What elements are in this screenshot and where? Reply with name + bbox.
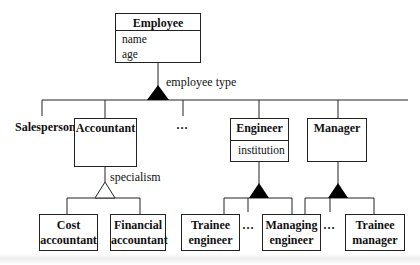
class-name: Employee (116, 14, 200, 30)
class-managing-engineer: Managingengineer (262, 214, 321, 251)
class-trainee-engineer: Traineeengineer (181, 214, 240, 251)
class-employee: Employee name age (115, 13, 201, 63)
class-name: Engineer (231, 119, 288, 140)
class-name: Accountant (75, 119, 136, 135)
bottom-fade (0, 254, 420, 265)
ellipsis: … (242, 218, 254, 233)
attribute-age: age (116, 47, 200, 62)
class-financial-accountant: Financialaccountant (110, 214, 166, 251)
class-accountant: Accountant (74, 118, 137, 167)
class-cost-accountant: Costaccountant (39, 214, 98, 251)
class-engineer: Engineer institution (230, 118, 289, 162)
attribute-institution: institution (231, 141, 288, 158)
class-salesperson: Salesperson (15, 120, 76, 135)
class-trainee-manager: Traineemanager (345, 214, 405, 251)
generalization-triangle-filled (249, 183, 269, 198)
discriminator-label: specialism (110, 170, 161, 185)
attribute-name: name (116, 32, 200, 47)
class-name: Manager (308, 119, 366, 135)
discriminator-label: employee type (166, 75, 236, 90)
ellipsis: … (176, 118, 188, 133)
generalization-triangle-filled (328, 183, 348, 198)
class-manager: Manager (307, 118, 367, 162)
ellipsis: … (323, 218, 335, 233)
